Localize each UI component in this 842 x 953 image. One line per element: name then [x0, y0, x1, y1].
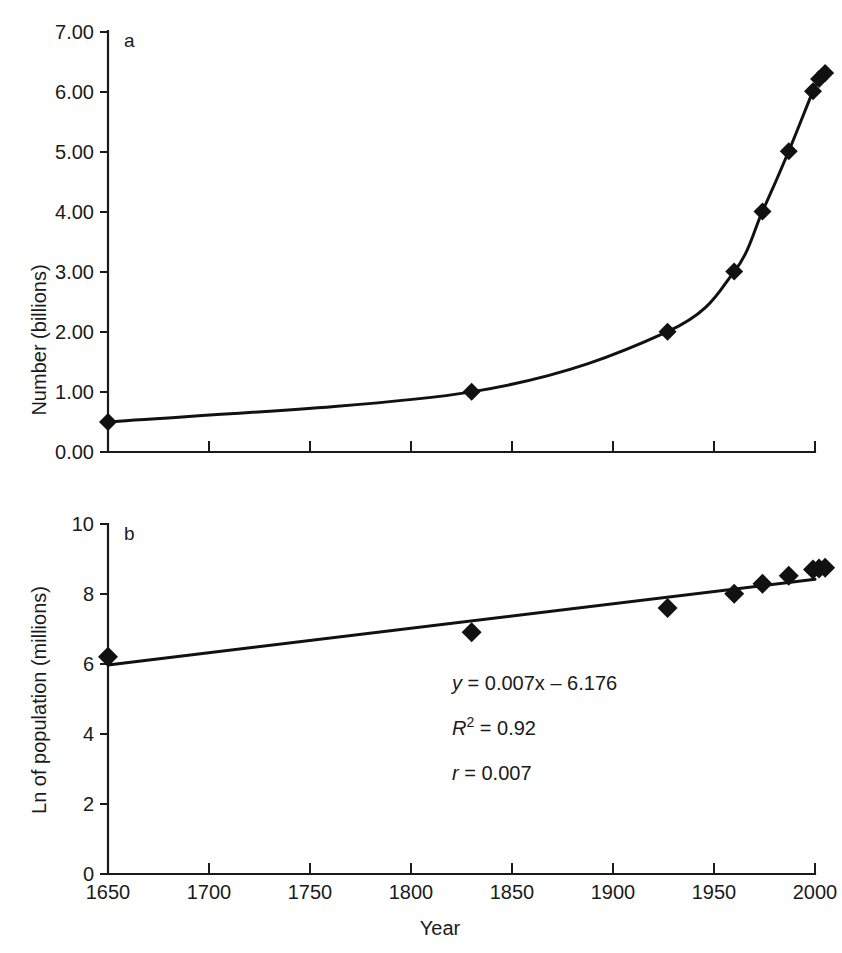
panel-a-ytick-7: 7.00 — [55, 21, 94, 43]
panel-a-label: a — [124, 30, 135, 51]
panel-b-xtick-1750: 1750 — [288, 881, 333, 903]
panel-a-data-markers — [99, 64, 834, 431]
figure-population-growth: Number (billions) a 0.00 1.00 2.00 3.00 … — [0, 0, 842, 953]
fit-r-value: r = 0.007 — [452, 762, 532, 784]
data-point-marker — [463, 383, 481, 401]
data-point-marker — [724, 584, 744, 604]
panel-b-y-axis-title: Ln of population (millions) — [28, 586, 50, 814]
fit-r-squared-symbol: R — [452, 717, 466, 739]
data-point-marker — [752, 574, 772, 594]
data-point-marker — [753, 202, 771, 220]
panel-a: Number (billions) a 0.00 1.00 2.00 3.00 … — [28, 21, 834, 463]
panel-a-ytick-6: 6.00 — [55, 81, 94, 103]
panel-b-xtick-1700: 1700 — [187, 881, 232, 903]
panel-b-x-axis-title: Year — [420, 917, 461, 939]
fit-r-body: = 0.007 — [459, 762, 532, 784]
fit-equation: y = 0.007x – 6.176 — [450, 672, 617, 694]
panel-b: Ln of population (millions) b 0 2 4 6 8 … — [28, 513, 837, 939]
panel-a-y-tick-labels: 0.00 1.00 2.00 3.00 4.00 5.00 6.00 7.00 — [55, 21, 94, 463]
panel-b-ytick-1: 2 — [83, 793, 94, 815]
panel-b-y-tick-labels: 0 2 4 6 8 10 — [72, 513, 94, 885]
panel-a-y-axis-title: Number (billions) — [28, 264, 50, 415]
data-point-marker — [462, 622, 482, 642]
fit-equation-body: = 0.007x – 6.176 — [462, 672, 617, 694]
panel-b-x-tick-labels: 1650 1700 1750 1800 1850 1900 1950 2000 — [86, 881, 838, 903]
panel-b-xtick-1900: 1900 — [591, 881, 636, 903]
panel-b-x-ticks — [108, 863, 815, 874]
fit-r-squared: R2 = 0.92 — [452, 714, 536, 739]
panel-b-ytick-3: 6 — [83, 653, 94, 675]
figure-canvas: Number (billions) a 0.00 1.00 2.00 3.00 … — [0, 0, 842, 953]
panel-a-x-ticks — [108, 441, 815, 452]
data-point-marker — [780, 142, 798, 160]
panel-b-xtick-1850: 1850 — [490, 881, 535, 903]
panel-a-y-ticks — [100, 32, 108, 452]
fit-r-squared-exponent: 2 — [466, 714, 474, 730]
data-point-marker — [659, 323, 677, 341]
data-point-marker — [658, 598, 678, 618]
panel-b-ytick-4: 8 — [83, 583, 94, 605]
panel-b-label: b — [124, 523, 135, 544]
panel-b-ytick-5: 10 — [72, 513, 94, 535]
panel-a-trend-curve — [108, 73, 825, 422]
panel-b-data-markers — [98, 558, 835, 667]
panel-b-xtick-1950: 1950 — [692, 881, 737, 903]
panel-a-ytick-1: 1.00 — [55, 381, 94, 403]
panel-a-ytick-5: 5.00 — [55, 141, 94, 163]
panel-b-xtick-2000: 2000 — [793, 881, 838, 903]
panel-b-fit-annotations: y = 0.007x – 6.176 R2 = 0.92 r = 0.007 — [450, 672, 617, 784]
panel-a-ytick-0: 0.00 — [55, 441, 94, 463]
panel-b-y-ticks — [100, 524, 108, 874]
panel-a-ytick-3: 3.00 — [55, 261, 94, 283]
panel-a-ytick-4: 4.00 — [55, 201, 94, 223]
panel-b-xtick-1800: 1800 — [389, 881, 434, 903]
panel-a-ytick-2: 2.00 — [55, 321, 94, 343]
fit-r-squared-body: = 0.92 — [474, 717, 536, 739]
panel-b-regression-line — [108, 579, 815, 665]
panel-b-ytick-2: 4 — [83, 723, 94, 745]
panel-b-xtick-1650: 1650 — [86, 881, 131, 903]
data-point-marker — [99, 413, 117, 431]
